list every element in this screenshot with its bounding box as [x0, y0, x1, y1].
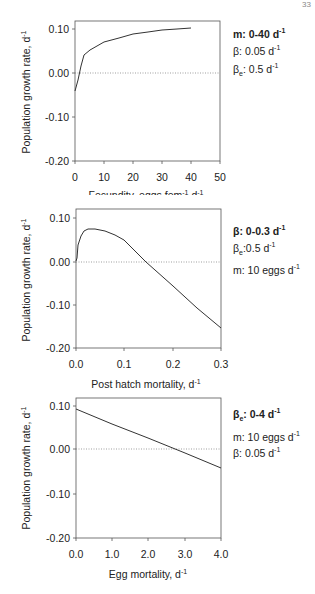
y-tick-label: -0.10: [46, 488, 70, 500]
legend-item: βe: 0.5 d-1: [233, 59, 285, 80]
chart-legend: m: 0-40 d-1 β: 0.05 d-1 βe: 0.5 d-1: [233, 24, 285, 80]
x-axis-label: Egg mortality, d-1: [109, 568, 188, 580]
x-tick-labels: 0.0 1.0 2.0 3.0 4.0: [69, 548, 229, 560]
y-axis-label: Population growth rate, d-1: [20, 30, 32, 153]
y-tick-label: 0.00: [50, 256, 71, 268]
legend-item: β: 0.05 d-1: [233, 443, 300, 460]
y-tick-label: -0.20: [46, 532, 70, 544]
y-tick-labels: 0.10 0.00 -0.10 -0.20: [46, 212, 70, 354]
data-series-line: [76, 229, 221, 328]
x-tick-label: 0.0: [69, 548, 84, 560]
y-axis-label: Population growth rate, d-1: [20, 218, 32, 341]
chart-panel-post-hatch-mortality: 0.10 0.00 -0.10 -0.20 0.0 0.1 0.2 0.3 Po…: [0, 195, 315, 395]
x-tick-label: 0.0: [69, 358, 84, 370]
x-tick-label: 0.2: [166, 358, 181, 370]
chart-legend: βe: 0-4 d-1 m: 10 eggs d-1 β: 0.05 d-1: [233, 404, 300, 460]
chart-legend: β: 0-0.3 d-1 βe:0.5 d-1 m: 10 eggs d-1: [233, 221, 300, 277]
legend-item: m: 10 eggs d-1: [233, 260, 300, 277]
x-tick-label: 0.1: [117, 358, 132, 370]
legend-item: βe: 0-4 d-1: [233, 404, 300, 425]
plot-frame: [76, 398, 221, 538]
x-tick-label: 20: [127, 171, 139, 183]
y-tick-label: 0.10: [50, 212, 71, 224]
x-tick-labels: 0.0 0.1 0.2 0.3: [69, 358, 229, 370]
x-ticks: [75, 161, 220, 164]
chart-panel-fecundity: 0.10 0.00 -0.10 -0.20 0 10 20 30 40 50 F…: [0, 0, 315, 195]
x-tick-label: 1.0: [105, 548, 120, 560]
x-tick-label: 30: [156, 171, 168, 183]
legend-item: m: 10 eggs d-1: [233, 427, 300, 444]
y-tick-labels: 0.10 0.00 -0.10 -0.20: [46, 400, 70, 544]
x-ticks: [76, 348, 221, 351]
y-tick-label: 0.00: [49, 67, 70, 79]
y-tick-label: 0.10: [49, 23, 70, 35]
y-ticks: [73, 406, 76, 538]
y-tick-label: -0.10: [46, 299, 70, 311]
data-series-line: [76, 409, 221, 468]
x-tick-label: 2.0: [141, 548, 156, 560]
y-axis-label: Population growth rate, d-1: [20, 406, 32, 529]
x-tick-label: 40: [185, 171, 197, 183]
x-tick-label: 0: [72, 171, 78, 183]
legend-item: βe:0.5 d-1: [233, 238, 300, 259]
y-tick-labels: 0.10 0.00 -0.10 -0.20: [45, 23, 69, 167]
y-ticks: [73, 218, 76, 348]
legend-item: m: 0-40 d-1: [233, 24, 285, 41]
x-ticks: [76, 538, 221, 541]
x-tick-label: 50: [214, 171, 226, 183]
legend-item: β: 0.05 d-1: [233, 41, 285, 58]
data-series-line: [75, 28, 191, 91]
y-tick-label: 0.10: [50, 400, 71, 412]
chart-panel-egg-mortality: 0.10 0.00 -0.10 -0.20 0.0 1.0 2.0 3.0 4.…: [0, 395, 315, 594]
y-tick-label: -0.20: [45, 155, 69, 167]
x-tick-label: 3.0: [178, 548, 193, 560]
legend-item: β: 0-0.3 d-1: [233, 221, 300, 238]
x-tick-label: 0.3: [214, 358, 229, 370]
y-tick-label: -0.20: [46, 342, 70, 354]
y-tick-label: 0.00: [50, 443, 71, 455]
y-ticks: [72, 29, 75, 161]
x-tick-label: 10: [98, 171, 110, 183]
x-axis-label: Post hatch mortality, d-1: [91, 378, 200, 390]
x-tick-labels: 0 10 20 30 40 50: [72, 171, 226, 183]
y-tick-label: -0.10: [45, 111, 69, 123]
plot-frame: [75, 21, 220, 161]
x-tick-label: 4.0: [214, 548, 229, 560]
